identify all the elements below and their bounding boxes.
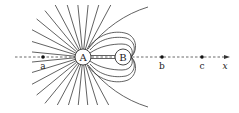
charge-B-label: B bbox=[119, 52, 126, 63]
point-c: c bbox=[199, 55, 204, 71]
charge-A-label: A bbox=[78, 52, 87, 63]
charge-B: B bbox=[115, 49, 131, 65]
field-line bbox=[87, 5, 111, 50]
point-a: a bbox=[40, 55, 46, 71]
field-lines-from-A bbox=[32, 5, 111, 105]
far-curve-lower bbox=[88, 65, 148, 107]
field-line bbox=[87, 64, 109, 105]
point-a-label: a bbox=[40, 61, 46, 71]
point-c-label: c bbox=[199, 61, 204, 71]
point-b: b bbox=[159, 55, 165, 71]
x-axis-arrow-icon bbox=[224, 55, 230, 59]
far-curve-upper bbox=[88, 7, 148, 49]
point-b-label: b bbox=[159, 61, 165, 71]
x-axis-label: x bbox=[222, 61, 227, 71]
field-line-diagram: A B a b c x bbox=[0, 0, 239, 113]
charge-A: A bbox=[75, 49, 91, 65]
